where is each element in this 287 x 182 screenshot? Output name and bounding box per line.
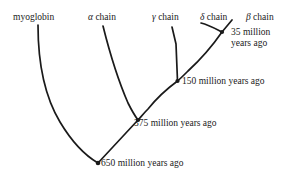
tip-label-alpha-chain: α chain [88,12,116,23]
node-label-650-million: 650 million years ago [101,158,184,169]
node-label-375-million: 375 million years ago [134,118,217,129]
tip-label-gamma-chain: γ chain [152,12,179,23]
tip-label-beta-chain: β chain [246,12,274,23]
branch-gamma-chain [172,27,178,81]
node-label-150-million: 150 million years ago [182,76,265,87]
phylogenetic-tree-figure: myoglobin α chain γ chain δ chain β chai… [0,0,287,182]
branch-trunk-35-to-150 [178,32,223,81]
node-point-35 [220,30,224,34]
branch-alpha-chain [103,26,138,120]
node-point-150 [175,79,179,83]
node-label-35-line1: 35 million [231,27,270,37]
node-point-650 [96,161,101,166]
node-label-35-million: 35 million years ago [231,27,287,48]
tip-label-myoglobin: myoglobin [13,12,54,23]
branch-trunk-375-to-650 [98,120,138,163]
tip-label-delta-chain: δ chain [200,12,227,23]
branch-delta-chain [201,23,222,32]
branch-myoglobin [38,25,98,163]
node-label-35-line2: years ago [231,38,267,48]
branch-trunk-150-to-375 [138,81,178,120]
